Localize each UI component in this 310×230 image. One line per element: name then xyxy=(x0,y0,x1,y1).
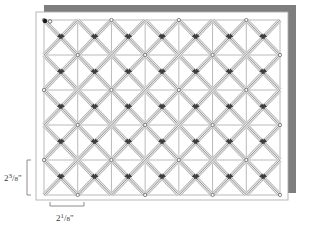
horizontal-dim-denominator: 8 xyxy=(67,215,71,223)
horizontal-dim-fraction: 1/8 xyxy=(61,212,71,223)
quilting-diagram-svg xyxy=(0,0,310,230)
vertical-dimension-label: 23/8" xyxy=(4,172,22,183)
vertical-dim-fraction: 3/8 xyxy=(9,172,19,183)
horizontal-dim-unit: " xyxy=(70,213,74,223)
vertical-dim-unit: " xyxy=(18,173,22,183)
horizontal-dimension-label: 21/8" xyxy=(56,212,74,223)
figure-container: 23/8" 21/8" xyxy=(0,0,310,230)
vertical-dim-denominator: 8 xyxy=(15,175,19,183)
